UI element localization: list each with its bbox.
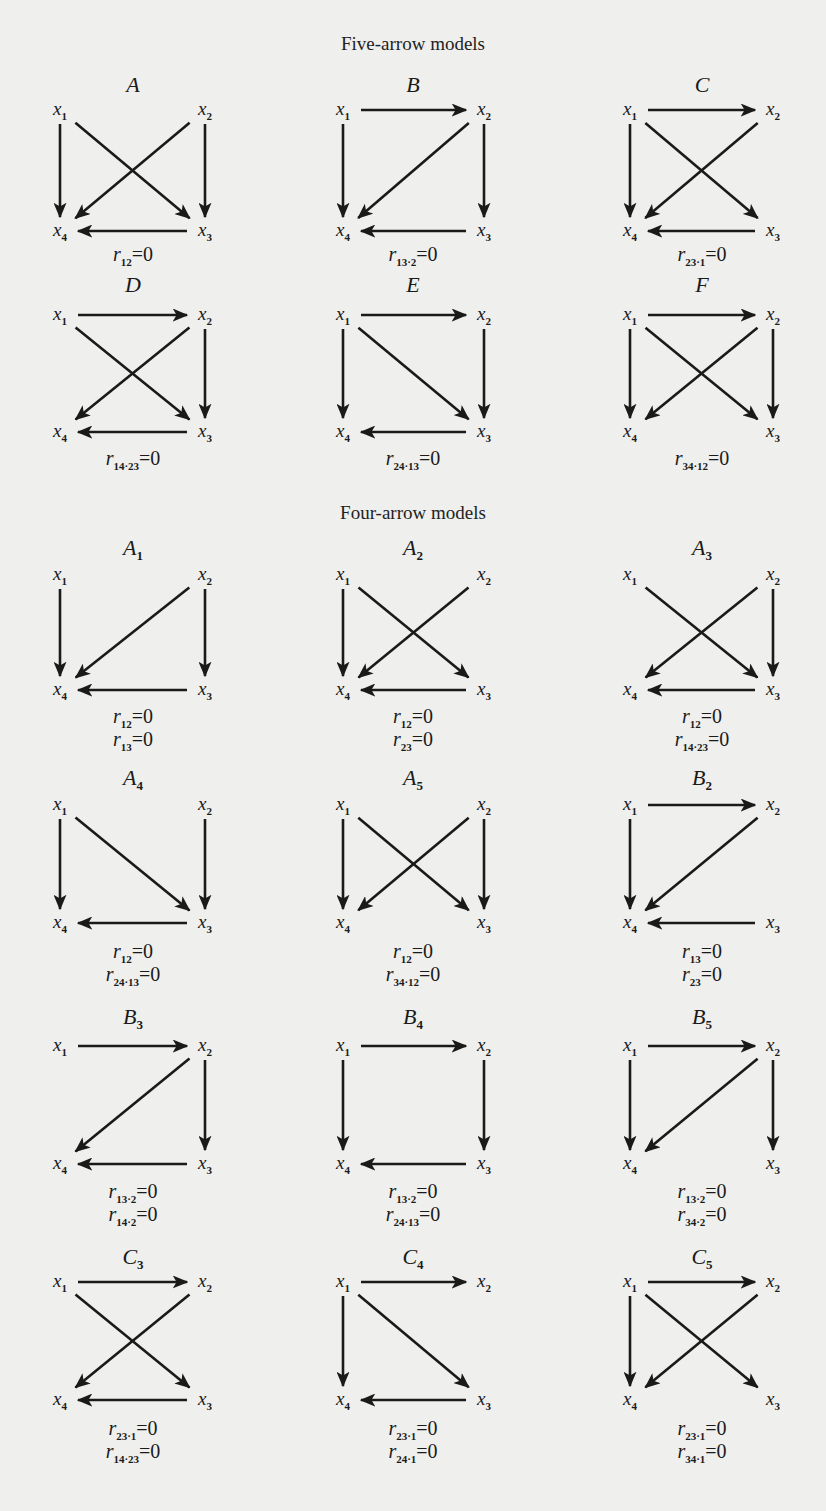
arrow-x1-to-x3 bbox=[358, 1295, 468, 1387]
arrow-x2-to-x4 bbox=[76, 587, 190, 677]
arrow-x2-to-x4 bbox=[645, 1059, 757, 1152]
path-model-figure: Five-arrow modelsFour-arrow models Ax1x2… bbox=[0, 0, 826, 1511]
edges-layer bbox=[0, 0, 826, 1511]
arrow-x1-to-x3 bbox=[358, 328, 468, 419]
arrow-x2-to-x4 bbox=[358, 123, 469, 218]
arrow-x1-to-x3 bbox=[76, 818, 190, 911]
arrow-x2-to-x4 bbox=[76, 1059, 190, 1152]
arrow-x2-to-x4 bbox=[645, 818, 757, 911]
